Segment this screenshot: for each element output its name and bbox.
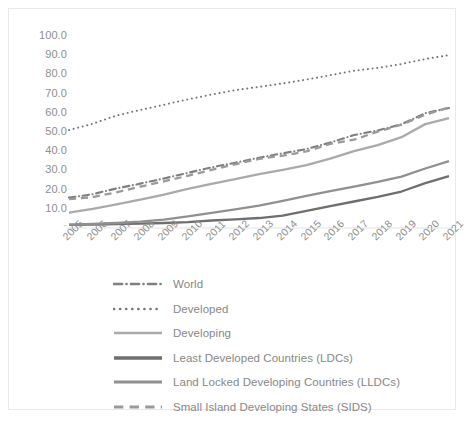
- legend-key-swatch: [113, 375, 163, 389]
- legend-key-swatch: [113, 326, 163, 340]
- legend-item-label: Least Developed Countries (LDCs): [173, 352, 353, 364]
- x-tick-label: 2019: [393, 217, 418, 242]
- x-tick-label: 2013: [250, 217, 275, 242]
- chart-legend: WorldDevelopedDevelopingLeast Developed …: [9, 261, 457, 409]
- legend-item-label: Developing: [173, 327, 231, 339]
- x-tick-label: 2018: [369, 217, 394, 242]
- legend-item-label: Small Island Developing States (SIDS): [173, 401, 372, 413]
- x-tick-label: 2006: [84, 217, 109, 242]
- x-tick-label: 2017: [345, 217, 370, 242]
- legend-item-label: Developed: [173, 303, 228, 315]
- legend-line-icon: [113, 326, 163, 340]
- x-tick-label: 2014: [274, 217, 299, 242]
- legend-item[interactable]: Developing: [113, 324, 231, 342]
- x-tick-label: 2012: [226, 217, 251, 242]
- legend-line-icon: [113, 277, 163, 291]
- x-tick-label: 2021: [440, 217, 465, 242]
- plot-region: -10.020.030.040.050.060.070.080.090.0100…: [9, 9, 457, 259]
- x-axis: 2005200620072008200920102011201220132014…: [9, 9, 457, 259]
- legend-item[interactable]: Developed: [113, 300, 228, 318]
- legend-item-label: Land Locked Developing Countries (LLDCs): [173, 376, 400, 388]
- line-chart-figure: -10.020.030.040.050.060.070.080.090.0100…: [8, 8, 456, 410]
- legend-key-swatch: [113, 277, 163, 291]
- legend-line-icon: [113, 351, 163, 365]
- legend-line-icon: [113, 400, 163, 414]
- legend-item[interactable]: Small Island Developing States (SIDS): [113, 398, 372, 416]
- legend-item[interactable]: Least Developed Countries (LDCs): [113, 349, 353, 367]
- x-tick-label: 2016: [321, 217, 346, 242]
- legend-key-swatch: [113, 302, 163, 316]
- x-tick-label: 2009: [155, 217, 180, 242]
- x-tick-label: 2008: [131, 217, 156, 242]
- x-tick-label: 2010: [179, 217, 204, 242]
- legend-item[interactable]: World: [113, 275, 203, 293]
- legend-key-swatch: [113, 351, 163, 365]
- legend-line-icon: [113, 302, 163, 316]
- x-tick-label: 2005: [60, 217, 85, 242]
- x-tick-label: 2007: [108, 217, 133, 242]
- legend-item-label: World: [173, 278, 203, 290]
- x-tick-label: 2015: [298, 217, 323, 242]
- x-tick-label: 2020: [416, 217, 441, 242]
- legend-key-swatch: [113, 400, 163, 414]
- legend-item[interactable]: Land Locked Developing Countries (LLDCs): [113, 373, 400, 391]
- x-tick-label: 2011: [203, 218, 228, 243]
- legend-line-icon: [113, 375, 163, 389]
